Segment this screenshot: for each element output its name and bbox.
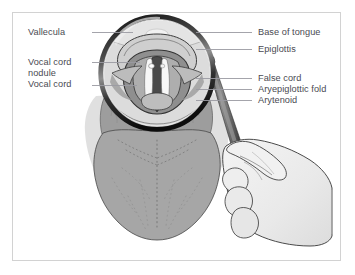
- tongue-group: [94, 130, 220, 240]
- label-vocal-cord-nodule-line2: nodule: [28, 68, 56, 79]
- label-vocal-cord-nodule-line1: Vocal cord: [28, 57, 71, 68]
- hand-group: [223, 139, 332, 246]
- label-aryepiglottic-fold: Aryepiglottic fold: [258, 84, 326, 95]
- vocal-cord-nodule-shape: [149, 64, 155, 69]
- laryngoscopy-figure: Vallecula Vocal cord nodule Vocal cord B…: [0, 0, 355, 275]
- arytenoid-shape: [142, 93, 173, 110]
- label-arytenoid: Arytenoid: [258, 95, 297, 106]
- label-base-of-tongue: Base of tongue: [258, 27, 321, 38]
- label-false-cord: False cord: [258, 73, 301, 84]
- label-vallecula: Vallecula: [28, 27, 65, 38]
- label-vocal-cord: Vocal cord: [28, 79, 71, 90]
- little-finger: [231, 208, 259, 239]
- diagram-artwork: [0, 0, 355, 275]
- label-epiglottis: Epiglottis: [258, 44, 296, 55]
- contact-bump-shape: [160, 64, 165, 68]
